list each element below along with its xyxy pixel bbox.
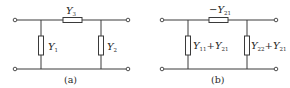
terminal-bottom-right [126, 67, 130, 71]
circuit-diagrams: Y3 Y1 Y2 (a) −Y21 Y11+Y21 Y22+Y [0, 0, 290, 88]
left-shunt-label: Y1 [48, 41, 58, 53]
series-label: −Y21 [209, 4, 231, 16]
series-admittance-y3 [63, 18, 82, 23]
pi-network-figure: Y3 Y1 Y2 (a) −Y21 Y11+Y21 Y22+Y [0, 0, 290, 88]
terminal-bottom-right [274, 67, 278, 71]
terminal-top-left [160, 18, 164, 22]
right-shunt-label: Y22+Y21 [251, 40, 287, 52]
terminal-top-left [13, 18, 17, 22]
right-shunt-label: Y2 [107, 41, 117, 53]
caption-a: (a) [64, 74, 77, 85]
shunt-admittance-y2 [99, 36, 104, 55]
circuit-b: −Y21 Y11+Y21 Y22+Y21 (b) [160, 4, 286, 85]
shunt-admittance-y11-plus-y21 [186, 36, 191, 55]
series-admittance-neg-y21 [209, 18, 228, 23]
terminal-top-right [274, 18, 278, 22]
series-label: Y3 [66, 5, 77, 17]
left-shunt-label: Y11+Y21 [193, 40, 229, 52]
shunt-admittance-y1 [39, 36, 44, 55]
circuit-a: Y3 Y1 Y2 (a) [13, 5, 130, 85]
terminal-top-right [126, 18, 130, 22]
caption-b: (b) [211, 74, 225, 85]
terminal-bottom-left [160, 67, 164, 71]
terminal-bottom-left [13, 67, 17, 71]
shunt-admittance-y22-plus-y21 [245, 36, 250, 55]
